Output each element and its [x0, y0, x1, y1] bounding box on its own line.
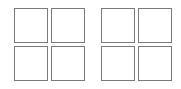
- grid-cell[interactable]: [14, 8, 48, 43]
- grid-group-left: [14, 8, 85, 81]
- grid-cell[interactable]: [138, 8, 172, 43]
- grid-group-right: [101, 8, 172, 81]
- grid-cell[interactable]: [101, 8, 135, 43]
- grid-cell[interactable]: [51, 46, 85, 81]
- grid-cell[interactable]: [51, 8, 85, 43]
- grid-cell[interactable]: [101, 46, 135, 81]
- grid-cell[interactable]: [138, 46, 172, 81]
- grid-cell[interactable]: [14, 46, 48, 81]
